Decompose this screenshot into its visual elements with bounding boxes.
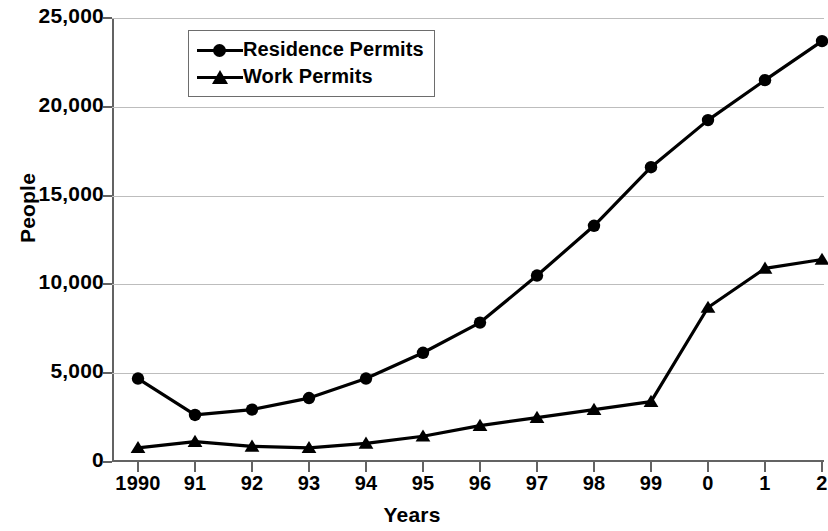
x-axis-tick-label: 98 bbox=[583, 472, 606, 495]
data-point-circle bbox=[474, 316, 486, 328]
y-axis-tick-label: 20,000 bbox=[8, 93, 104, 117]
chart-legend: Residence Permits Work Permits bbox=[188, 30, 435, 97]
triangle-marker-icon bbox=[197, 66, 243, 88]
data-point-circle bbox=[303, 392, 315, 404]
x-axis-tick-label: 92 bbox=[241, 472, 264, 495]
data-point-circle bbox=[645, 161, 657, 173]
y-axis-tick-label: 5,000 bbox=[8, 359, 104, 383]
x-axis-tickmark bbox=[707, 462, 709, 472]
data-point-circle bbox=[189, 409, 201, 421]
x-axis-tickmark bbox=[593, 462, 595, 472]
x-axis-tickmark bbox=[251, 462, 253, 472]
x-axis-tick-label: 1 bbox=[759, 472, 770, 495]
x-axis-tickmark bbox=[422, 462, 424, 472]
x-axis-tick-label: 91 bbox=[184, 472, 207, 495]
data-point-circle bbox=[132, 372, 144, 384]
x-axis-tick-label: 0 bbox=[702, 472, 713, 495]
legend-item-label: Work Permits bbox=[243, 65, 373, 88]
y-axis-tickmark bbox=[103, 461, 112, 463]
data-point-circle bbox=[360, 372, 372, 384]
x-axis-tick-label: 96 bbox=[469, 472, 492, 495]
x-axis-tick-label: 1990 bbox=[115, 472, 160, 495]
data-point-circle bbox=[702, 114, 714, 126]
y-axis-tickmark bbox=[103, 283, 112, 285]
x-axis-tickmark bbox=[137, 462, 139, 472]
x-axis-title: Years bbox=[0, 503, 824, 527]
y-axis-tickmark bbox=[103, 372, 112, 374]
data-point-circle bbox=[816, 35, 828, 47]
data-point-circle bbox=[759, 74, 771, 86]
y-axis-tick-label: 0 bbox=[8, 448, 104, 472]
x-axis-tick-label: 2 bbox=[816, 472, 827, 495]
x-axis-tick-label: 94 bbox=[355, 472, 378, 495]
x-axis-tick-label: 93 bbox=[298, 472, 321, 495]
data-point-circle bbox=[588, 220, 600, 232]
legend-item-residence-permits[interactable]: Residence Permits bbox=[197, 36, 424, 63]
y-axis-tick-label: 25,000 bbox=[8, 4, 104, 28]
x-axis-tickmark bbox=[764, 462, 766, 472]
x-axis-tick-label: 95 bbox=[412, 472, 435, 495]
x-axis-tickmark bbox=[479, 462, 481, 472]
y-axis-tick-label: 10,000 bbox=[8, 270, 104, 294]
legend-item-work-permits[interactable]: Work Permits bbox=[197, 63, 424, 90]
series-line bbox=[138, 41, 822, 415]
x-axis-tickmark bbox=[536, 462, 538, 472]
y-axis-tick-labels: 05,00010,00015,00020,00025,000 bbox=[8, 0, 104, 531]
data-point-circle bbox=[417, 347, 429, 359]
circle-marker-icon bbox=[197, 39, 243, 61]
x-axis-tickmark bbox=[650, 462, 652, 472]
data-point-circle bbox=[531, 269, 543, 281]
x-axis-tickmark bbox=[365, 462, 367, 472]
series-work-permits bbox=[131, 253, 828, 453]
x-axis-tickmark bbox=[821, 462, 823, 472]
legend-item-label: Residence Permits bbox=[243, 38, 424, 61]
x-axis-tick-label: 99 bbox=[640, 472, 663, 495]
y-axis-tick-label: 15,000 bbox=[8, 182, 104, 206]
data-point-circle bbox=[246, 403, 258, 415]
y-axis-tickmark bbox=[103, 106, 112, 108]
x-axis-tick-label: 97 bbox=[526, 472, 549, 495]
y-axis-tickmark bbox=[103, 195, 112, 197]
y-axis-tickmark bbox=[103, 17, 112, 19]
x-axis-tickmark bbox=[194, 462, 196, 472]
x-axis-tickmark bbox=[308, 462, 310, 472]
